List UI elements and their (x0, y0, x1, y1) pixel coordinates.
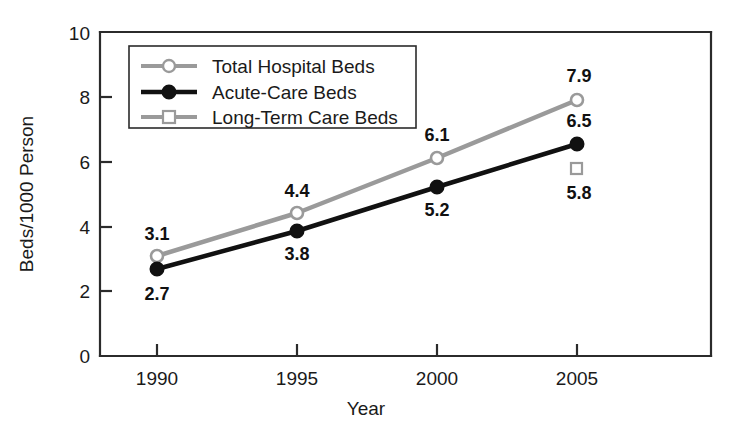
series-long-term-care-beds (571, 163, 582, 174)
label-longterm-2005: 5.8 (566, 183, 591, 203)
acute-care-beds-point-2005 (571, 138, 584, 151)
acute-care-beds-point-1995 (291, 225, 304, 238)
long-term-care-beds-point-2005 (571, 163, 582, 174)
label-total-2000: 6.1 (424, 125, 449, 145)
label-acute-2005: 6.5 (566, 111, 591, 131)
y-tick-label-6: 6 (79, 152, 90, 173)
acute-care-beds-point-1990 (151, 263, 164, 276)
y-tick-label-4: 4 (79, 217, 90, 238)
label-acute-1995: 3.8 (284, 244, 309, 264)
chart-figure: 0 2 4 6 8 10 1990 1995 2000 2005 Year Be… (0, 0, 739, 436)
y-tick-label-2: 2 (79, 281, 90, 302)
y-tick-label-8: 8 (79, 87, 90, 108)
label-total-1990: 3.1 (144, 224, 169, 244)
y-axis-title: Beds/1000 Person (16, 116, 37, 272)
beds-per-1000-person-line-chart: 0 2 4 6 8 10 1990 1995 2000 2005 Year Be… (0, 0, 739, 436)
open-square-icon (163, 111, 175, 123)
chart-legend: Total Hospital Beds Acute-Care Beds Long… (129, 46, 416, 128)
total-hospital-beds-point-2005 (571, 94, 583, 106)
open-circle-icon (163, 60, 175, 72)
legend-label-acute-care-beds: Acute-Care Beds (212, 82, 357, 103)
x-tick-label-2000: 2000 (416, 368, 458, 389)
total-hospital-beds-point-2000 (431, 152, 443, 164)
label-acute-1990: 2.7 (144, 284, 169, 304)
x-tick-label-1995: 1995 (276, 368, 318, 389)
x-tick-label-1990: 1990 (136, 368, 178, 389)
legend-label-total-hospital-beds: Total Hospital Beds (212, 56, 375, 77)
x-axis-title: Year (347, 398, 386, 419)
label-total-2005: 7.9 (566, 66, 591, 86)
label-acute-2000: 5.2 (424, 200, 449, 220)
x-tick-label-2005: 2005 (556, 368, 598, 389)
y-tick-label-0: 0 (79, 346, 90, 367)
acute-care-beds-point-2000 (431, 181, 444, 194)
total-hospital-beds-point-1990 (151, 250, 163, 262)
label-total-1995: 4.4 (284, 181, 309, 201)
total-hospital-beds-point-1995 (291, 207, 303, 219)
legend-label-long-term-care-beds: Long-Term Care Beds (212, 107, 398, 128)
y-tick-label-10: 10 (69, 23, 90, 44)
filled-circle-icon (163, 86, 176, 99)
